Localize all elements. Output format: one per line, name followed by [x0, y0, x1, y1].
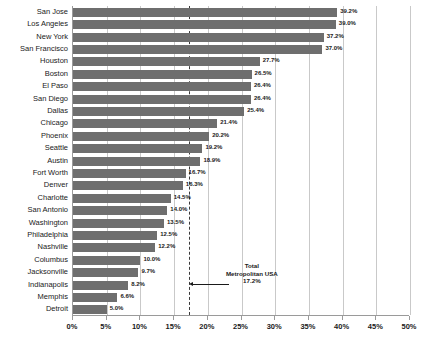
x-axis-tick-label: 45% — [368, 322, 383, 331]
x-axis-tick-label: 35% — [300, 322, 315, 331]
x-axis-tick-label: 0% — [67, 322, 78, 331]
bar-row: San Diego26.4% — [73, 95, 409, 104]
x-axis-tick — [375, 316, 376, 320]
bar — [73, 144, 202, 153]
x-axis-tick — [308, 316, 309, 320]
bar-value-label: 5.0% — [107, 304, 124, 313]
category-label: Philadelphia — [27, 229, 68, 241]
category-label: San Jose — [37, 6, 68, 18]
category-label: Nashville — [38, 241, 68, 253]
category-label: Detroit — [46, 303, 68, 315]
x-axis-tick — [139, 316, 140, 320]
bar-value-label: 20.2% — [209, 131, 229, 140]
category-label: Indianapolis — [28, 279, 68, 291]
x-axis-tick — [342, 316, 343, 320]
category-label: Boston — [45, 68, 68, 80]
bar-value-label: 25.4% — [244, 106, 264, 115]
bar-row: Philadelphia12.5% — [73, 231, 409, 240]
category-label: Chicago — [40, 117, 68, 129]
bar-row: Nashville12.2% — [73, 243, 409, 252]
annotation-arrow — [193, 284, 229, 285]
bar — [73, 206, 167, 215]
category-label: Columbus — [34, 254, 68, 266]
category-label: Los Angeles — [27, 18, 68, 30]
bar — [73, 95, 251, 104]
bar-row: New York37.2% — [73, 33, 409, 42]
bar-row: Dallas25.4% — [73, 107, 409, 116]
bar-row: Seattle19.2% — [73, 144, 409, 153]
bar-row: Denver16.3% — [73, 181, 409, 190]
category-label: San Diego — [33, 93, 68, 105]
category-label: San Antonio — [28, 204, 68, 216]
bar-value-label: 19.2% — [202, 143, 222, 152]
bar — [73, 231, 157, 240]
x-axis-tick-label: 40% — [334, 322, 349, 331]
bar — [73, 20, 336, 29]
bar-row: Houston27.7% — [73, 57, 409, 66]
bar — [73, 33, 324, 42]
category-label: Memphis — [38, 291, 68, 303]
bar — [73, 169, 186, 178]
x-axis-tick — [274, 316, 275, 320]
bar-value-label: 21.4% — [217, 118, 237, 127]
bar — [73, 181, 183, 190]
bar-row: Austin18.9% — [73, 157, 409, 166]
x-axis-tick-label: 5% — [100, 322, 111, 331]
bar-value-label: 39.0% — [336, 19, 356, 28]
bar-row: Fort Worth16.7% — [73, 169, 409, 178]
bar — [73, 256, 140, 265]
category-label: Houston — [40, 55, 68, 67]
x-axis-tick-label: 50% — [401, 322, 416, 331]
bar — [73, 268, 138, 277]
bar — [73, 82, 251, 91]
bar-value-label: 12.2% — [155, 242, 175, 251]
bar-value-label: 13.5% — [164, 218, 184, 227]
bar-row: Boston26.5% — [73, 70, 409, 79]
bar — [73, 219, 164, 228]
bar-value-label: 37.2% — [324, 32, 344, 41]
bar — [73, 132, 209, 141]
bar-value-label: 9.7% — [138, 267, 155, 276]
gridline — [410, 6, 411, 315]
bar — [73, 243, 155, 252]
x-axis-tick — [106, 316, 107, 320]
annotation-line-2: Metropolitan USA — [226, 270, 278, 278]
bar-row: Charlotte14.5% — [73, 194, 409, 203]
bar-row: Phoenix20.2% — [73, 132, 409, 141]
bar — [73, 45, 322, 54]
x-axis-tick-label: 20% — [199, 322, 214, 331]
category-label: Fort Worth — [33, 167, 68, 179]
bar — [73, 157, 200, 166]
annotation-arrowhead-icon — [189, 282, 193, 286]
bar-value-label: 39.2% — [337, 7, 357, 16]
category-label: Denver — [44, 179, 68, 191]
annotation-line-3: 17.2% — [226, 277, 278, 285]
bar — [73, 293, 117, 302]
x-axis-tick-label: 15% — [166, 322, 181, 331]
x-axis-tick — [409, 316, 410, 320]
bar — [73, 305, 107, 314]
x-axis-tick — [207, 316, 208, 320]
bar-value-label: 26.4% — [251, 94, 271, 103]
bar-value-label: 18.9% — [200, 156, 220, 165]
bar-row: Chicago21.4% — [73, 119, 409, 128]
x-axis-tick — [72, 316, 73, 320]
category-label: New York — [36, 31, 68, 43]
bar-row: Memphis6.6% — [73, 293, 409, 302]
bar-value-label: 26.4% — [251, 81, 271, 90]
category-label: Dallas — [47, 105, 68, 117]
x-axis: 0%5%10%15%20%25%30%35%40%45%50% — [72, 316, 409, 338]
category-label: Washington — [29, 217, 68, 229]
bar-row: El Paso26.4% — [73, 82, 409, 91]
bar-row: Washington13.5% — [73, 219, 409, 228]
bar-value-label: 37.0% — [322, 44, 342, 53]
bar-value-label: 16.3% — [183, 180, 203, 189]
bar-value-label: 8.2% — [128, 280, 145, 289]
bar-row: San Antonio14.0% — [73, 206, 409, 215]
bar-chart: San Jose39.2%Los Angeles39.0%New York37.… — [0, 0, 429, 349]
bar — [73, 107, 244, 116]
category-label: San Francisco — [20, 43, 68, 55]
x-axis-tick-label: 25% — [233, 322, 248, 331]
bar-value-label: 6.6% — [117, 292, 134, 301]
bar-value-label: 12.5% — [157, 230, 177, 239]
